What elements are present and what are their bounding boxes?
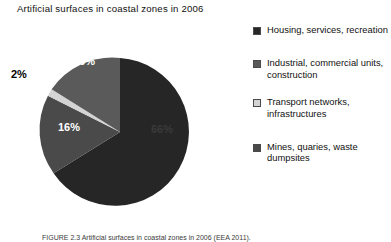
legend-item-industrial: Industrial, commercial units, constructi… [253,57,389,80]
legend-label-industrial: Industrial, commercial units, constructi… [267,57,389,80]
legend-item-mines: Mines, quaries, waste dumpsites [253,141,389,164]
legend-swatch-icon-transport [253,99,261,107]
figure-caption: FIGURE 2.3 Artificial surfaces in coasta… [42,234,352,242]
legend-swatch-icon-industrial [253,60,261,68]
legend-swatch-icon-mines [253,144,261,152]
legend-item-housing: Housing, services, recreation [253,24,389,35]
pie-label-transport: 2% [11,68,27,80]
legend-item-transport: Transport networks, infrastructures [253,96,389,119]
pie-chart-svg [0,20,248,235]
chart-title: Artificial surfaces in coastal zones in … [17,3,204,14]
pie-label-industrial: 16% [73,55,95,67]
legend-swatch-icon-housing [253,27,261,35]
pie-chart: 66% 16% 2% 16% [0,20,248,235]
legend-label-transport: Transport networks, infrastructures [267,96,389,119]
pie-label-housing: 66% [151,123,173,135]
pie-label-mines: 16% [58,121,80,133]
legend-label-mines: Mines, quaries, waste dumpsites [267,141,389,164]
legend-label-housing: Housing, services, recreation [267,24,388,35]
chart-legend: Housing, services, recreation Industrial… [253,24,389,177]
